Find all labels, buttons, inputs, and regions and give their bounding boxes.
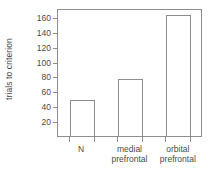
bar [70,100,95,136]
x-axis-tick-mark [190,137,191,142]
bar [118,79,143,136]
y-axis-tick-labels: 20406080100120140160 [18,0,54,145]
bar [166,15,191,136]
y-axis-tick-label: 100 [37,58,51,67]
x-axis-tick-mark [117,137,118,142]
y-axis-tick-mark [53,122,57,123]
y-axis-tick-mark [53,18,57,19]
x-axis-category-label: orbital prefrontal [154,144,202,164]
y-axis-tick-label: 80 [42,73,51,82]
x-axis-category-label: N [57,144,105,154]
y-axis-tick-mark [53,107,57,108]
y-axis-tick-label: 140 [37,29,51,38]
y-axis-tick-label: 60 [42,88,51,97]
bar-chart-figure: trials to criterion 20406080100120140160… [0,0,217,174]
y-axis-tick-mark [53,33,57,34]
y-axis-tick-mark [53,77,57,78]
y-axis-title: trials to criterion [0,0,18,137]
x-axis-tick-mark [94,137,95,142]
y-axis-tick-mark [53,63,57,64]
x-axis-tick-mark [165,137,166,142]
plot-area [57,9,202,137]
y-axis-tick-label: 160 [37,14,51,23]
y-axis-tick-mark [53,48,57,49]
y-axis-tick-label: 40 [42,103,51,112]
y-axis-tick-label: 20 [42,118,51,127]
y-axis-title-text: trials to criterion [4,38,14,100]
x-axis-tick-mark [142,137,143,142]
y-axis-tick-label: 120 [37,43,51,52]
x-axis-tick-mark [69,137,70,142]
y-axis-tick-mark [53,92,57,93]
x-axis-category-label: medial prefrontal [105,144,153,164]
